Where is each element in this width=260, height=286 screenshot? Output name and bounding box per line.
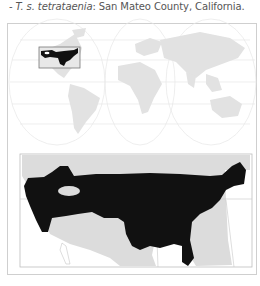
- maps-svg: [0, 0, 260, 286]
- detail-range-map: [20, 154, 252, 267]
- world-range-inset: [39, 47, 80, 68]
- continents: [40, 28, 245, 134]
